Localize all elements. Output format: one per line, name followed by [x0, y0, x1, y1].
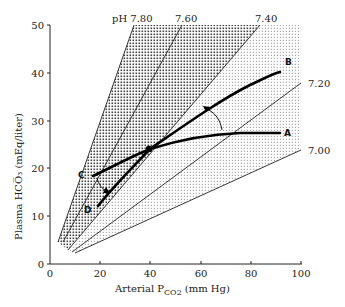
x-tick-80: 80 — [245, 268, 258, 279]
y-axis-title: Plasma HCO̅₃ (mEq/liter) — [13, 113, 24, 240]
curve-label-d: D — [84, 205, 91, 215]
x-tick-labels: 0 20 40 60 80 100 — [47, 268, 311, 279]
x-tick-20: 20 — [94, 268, 107, 279]
y-tick-30: 30 — [31, 116, 44, 127]
x-tick-60: 60 — [195, 268, 208, 279]
x-axis-title: Arterial PCO2(mm Hg) — [114, 283, 230, 297]
ph-label-720: 7.20 — [308, 78, 330, 89]
y-tick-40: 40 — [31, 68, 44, 79]
curve-label-c: C — [78, 170, 85, 180]
y-tick-10: 10 — [31, 211, 44, 222]
y-tick-50: 50 — [31, 20, 44, 31]
normal-point — [146, 146, 152, 152]
ph-label-700: 7.00 — [308, 145, 330, 156]
y-tick-0: 0 — [38, 259, 44, 270]
x-tick-0: 0 — [47, 268, 53, 279]
x-tick-100: 100 — [291, 268, 310, 279]
y-tick-labels: 0 10 20 30 40 50 — [31, 20, 44, 270]
ph-label-740: 7.40 — [255, 13, 277, 24]
ph-label-760: 7.60 — [175, 13, 197, 24]
y-tick-20: 20 — [31, 163, 44, 174]
x-tick-40: 40 — [144, 268, 157, 279]
ph-label-780: pH 7.80 — [112, 13, 153, 24]
bicarbonate-pco2-diagram: 0 10 20 30 40 50 0 20 40 60 80 100 Arter… — [0, 0, 345, 307]
curve-label-b: B — [285, 57, 292, 67]
curve-label-a: A — [284, 128, 291, 138]
